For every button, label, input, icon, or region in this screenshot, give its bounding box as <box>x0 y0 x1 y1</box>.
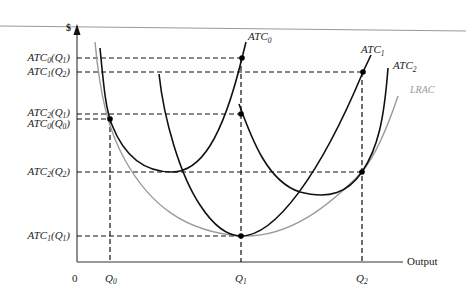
origin-label: 0 <box>72 272 78 284</box>
lrac-label: LRAC <box>409 84 435 95</box>
x-tick-labels: Q0 Q1 Q2 <box>105 272 368 286</box>
x-tick-q2: Q2 <box>356 272 368 286</box>
x-axis-label: Output <box>407 255 438 267</box>
atc0-label: ATC0 <box>247 30 272 45</box>
atc0-curve <box>100 42 246 172</box>
atc1-curve <box>159 55 371 236</box>
y-tick-atc0-q1: ATC0(Q1) <box>26 51 70 65</box>
x-tick-q1: Q1 <box>235 272 247 286</box>
y-tick-atc1-q1: ATC1(Q1) <box>26 229 70 243</box>
atc1-label: ATC1 <box>360 43 385 58</box>
x-tick-q0: Q0 <box>105 272 117 286</box>
y-tick-labels: ATC0(Q1) ATC1(Q2) ATC2(Q1) ATC0(Q0) ATC2… <box>26 51 70 243</box>
y-tick-atc1-q2: ATC1(Q2) <box>26 65 70 79</box>
y-tick-atc2-q2: ATC2(Q2) <box>26 165 70 179</box>
atc2-label: ATC2 <box>392 59 417 74</box>
cost-curves-diagram: $ Output 0 ATC0 ATC1 ATC2 LRAC ATC0(Q1) … <box>0 0 466 292</box>
y-axis-label: $ <box>66 22 71 33</box>
atc2-curve <box>239 68 388 195</box>
lrac-curve <box>95 42 398 236</box>
y-axis-arrow-icon <box>74 24 81 35</box>
